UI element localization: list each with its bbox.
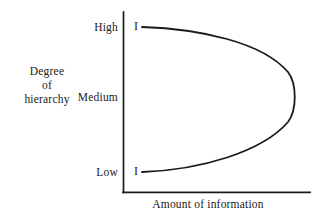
chart-figure: Degree of hierarchy High Medium Low I I …	[0, 0, 329, 220]
x-axis-title: Amount of information	[128, 197, 288, 211]
y-tick-low-label: Low	[24, 166, 118, 179]
y-tick-low: Low	[24, 166, 118, 179]
y-tick-medium-label: Medium	[24, 91, 118, 104]
hierarchy-information-curve	[142, 27, 295, 172]
upper-branch-endpoint-marker: I	[134, 20, 138, 33]
y-tick-high-label: High	[24, 21, 118, 34]
y-tick-high: High	[24, 21, 118, 34]
y-axis-title-line-1: Degree	[4, 64, 90, 78]
y-tick-medium: Medium	[24, 91, 118, 104]
lower-branch-endpoint-marker: I	[134, 165, 138, 178]
y-axis-title-line-2: of	[4, 78, 90, 92]
